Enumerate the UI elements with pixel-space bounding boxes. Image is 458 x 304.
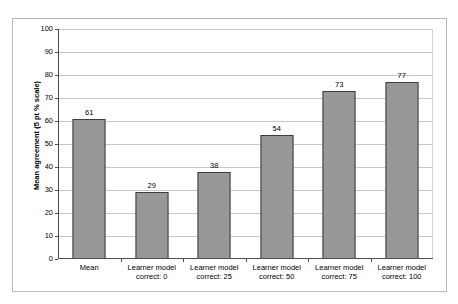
y-tick-label: 60: [28, 117, 53, 125]
y-tick-label: 80: [28, 71, 53, 79]
bar-slot: 77Learner modelcorrect: 100: [371, 29, 434, 259]
y-tick-label: 10: [28, 232, 53, 240]
x-tick-label-line: correct: 100: [366, 272, 438, 281]
y-tick-label: 0: [28, 255, 53, 263]
bar-slot: 61Mean: [58, 29, 121, 259]
x-tick-label-line: Learner model: [178, 263, 250, 272]
bar[interactable]: [73, 119, 106, 259]
x-tick-label-line: Learner model: [366, 263, 438, 272]
x-tick-mark: [308, 259, 309, 262]
x-tick-mark: [246, 259, 247, 262]
y-tick-label: 100: [28, 25, 53, 33]
y-tick-mark: [55, 259, 58, 260]
x-tick-label-line: Learner model: [241, 263, 313, 272]
x-tick-label-line: Mean: [53, 263, 125, 272]
x-tick-label: Mean: [53, 263, 125, 272]
x-tick-label: Learner modelcorrect: 75: [303, 263, 375, 281]
x-tick-label: Learner modelcorrect: 25: [178, 263, 250, 281]
x-tick-label: Learner modelcorrect: 100: [366, 263, 438, 281]
x-tick-label-line: correct: 75: [303, 272, 375, 281]
x-axis-line: [58, 258, 433, 259]
bar[interactable]: [323, 91, 356, 259]
x-tick-label-line: Learner model: [116, 263, 188, 272]
bar-value-label: 29: [148, 182, 156, 190]
bar-value-label: 54: [273, 125, 281, 133]
bar[interactable]: [198, 172, 231, 259]
x-tick-label-line: correct: 50: [241, 272, 313, 281]
chart-frame: Mean agreement (5 pt % scale) 0102030405…: [12, 18, 447, 292]
x-tick-label-line: Learner model: [303, 263, 375, 272]
y-tick-label: 30: [28, 186, 53, 194]
bar[interactable]: [385, 82, 418, 259]
bar-value-label: 61: [85, 109, 93, 117]
x-tick-label: Learner modelcorrect: 0: [116, 263, 188, 281]
bar-slot: 29Learner modelcorrect: 0: [121, 29, 184, 259]
x-tick-label: Learner modelcorrect: 50: [241, 263, 313, 281]
y-tick-label: 20: [28, 209, 53, 217]
x-tick-label-line: correct: 25: [178, 272, 250, 281]
y-tick-label: 70: [28, 94, 53, 102]
y-axis-title: Mean agreement (5 pt % scale): [32, 41, 41, 231]
y-tick-label: 90: [28, 48, 53, 56]
x-tick-mark: [371, 259, 372, 262]
page-root: Mean agreement (5 pt % scale) 0102030405…: [0, 0, 458, 304]
bars-group: 61Mean29Learner modelcorrect: 038Learner…: [58, 29, 433, 259]
bar-slot: 54Learner modelcorrect: 50: [246, 29, 309, 259]
bar-value-label: 73: [335, 81, 343, 89]
bar-slot: 73Learner modelcorrect: 75: [308, 29, 371, 259]
bar[interactable]: [260, 135, 293, 259]
plot-area: 0102030405060708090100 61Mean29Learner m…: [58, 29, 433, 259]
x-tick-mark: [183, 259, 184, 262]
x-tick-label-line: correct: 0: [116, 272, 188, 281]
y-tick-label: 50: [28, 140, 53, 148]
y-tick-label: 40: [28, 163, 53, 171]
bar-value-label: 77: [398, 72, 406, 80]
bar[interactable]: [135, 192, 168, 259]
bar-value-label: 38: [210, 162, 218, 170]
page-header-text: [10, 0, 210, 6]
x-tick-mark: [121, 259, 122, 262]
bar-slot: 38Learner modelcorrect: 25: [183, 29, 246, 259]
